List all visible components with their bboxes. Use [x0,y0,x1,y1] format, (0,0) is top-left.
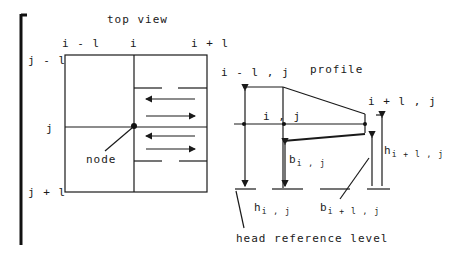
top-view: top view i - l i i + l j - l j j + l nod… [28,13,229,199]
col-label-i-plus-1: i + l [191,37,229,50]
b-i-j-label: bi , j [289,153,326,168]
profile-view: profile i - l , j i , j i + l , j bi , [221,63,444,245]
profile-title: profile [310,63,363,76]
node-leader-line [105,128,132,151]
left-bracket [21,14,27,245]
h-i-plus-1-j-label: hi + l , j [384,144,444,159]
col-label-i: i [130,37,138,50]
reference-leader-line [236,191,244,228]
col-label-i-minus-1: i - l [62,37,100,50]
grid-box [65,55,207,192]
point-label-i-j: i , j [263,110,301,123]
b-i-plus-1-j-label: bi + l , j [320,201,380,216]
top-view-title: top view [107,13,168,26]
row-label-j-plus-1: j + l [28,186,66,199]
node-label: node [86,153,117,166]
b-i-plus-1-leader-line [340,158,369,199]
point-label-i-plus-1-j: i + l , j [368,95,437,108]
row-label-j: j [46,122,54,135]
finite-difference-diagram: top view i - l i i + l j - l j j + l nod… [0,0,463,261]
head-reference-level-label: head reference level [236,232,388,245]
row-label-j-minus-1: j - l [28,54,66,67]
h-i-j-label: hi , j [254,201,291,216]
point-label-i-minus-1-j: i - l , j [221,66,290,79]
